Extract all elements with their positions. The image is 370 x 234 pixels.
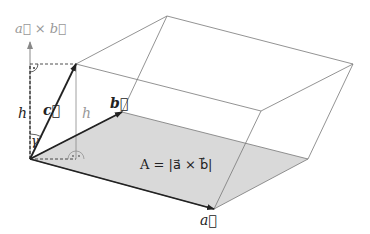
area-formula: A = |a⃗ × b⃗|: [140, 158, 212, 171]
height-label-left: h: [18, 106, 27, 120]
edge-b-c: [122, 16, 167, 112]
vector-c-label: c⃗: [43, 103, 60, 117]
vector-b-label: b⃗: [110, 96, 128, 110]
cross-axis-label: a⃗ × b⃗: [15, 22, 66, 35]
vector-a-label: a⃗: [200, 213, 217, 227]
parallelepiped-diagram: a⃗ × b⃗ h h γ c⃗ b⃗ a⃗ A = |a⃗ × b⃗|: [0, 0, 370, 234]
gamma-label: γ: [31, 134, 39, 147]
edge-ab-c: [308, 64, 353, 159]
height-label-inner: h: [82, 106, 91, 120]
